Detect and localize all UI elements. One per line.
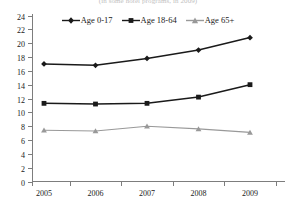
y-tick-label: 0 xyxy=(21,179,25,188)
data-series-group xyxy=(41,35,253,135)
y-tick-label: 20 xyxy=(17,40,25,49)
y-tick-label: 18 xyxy=(17,54,25,63)
y-tick-label: 10 xyxy=(17,109,25,118)
x-tick-label: 2009 xyxy=(242,189,258,198)
y-tick-label: 8 xyxy=(21,123,25,132)
line-chart: (in some hotel programs, in 2009) Age 0-… xyxy=(0,0,296,210)
y-tick-label: 12 xyxy=(17,96,25,105)
y-tick-label: 2 xyxy=(21,165,25,174)
x-tick-label: 2007 xyxy=(139,189,155,198)
x-axis: 20052006200720082009 xyxy=(33,182,286,199)
x-tick-labels: 20052006200720082009 xyxy=(36,189,258,198)
x-tick-label: 2008 xyxy=(191,189,207,198)
y-tick-label: 22 xyxy=(17,26,25,35)
series-age-0-17 xyxy=(41,35,253,68)
y-tick-label: 14 xyxy=(17,82,25,91)
data-point-marker xyxy=(248,82,253,87)
data-point-marker xyxy=(196,95,201,100)
data-point-marker xyxy=(145,101,150,106)
y-tick-label: 6 xyxy=(21,137,25,146)
series-age-65 xyxy=(41,123,253,134)
y-tick-label: 16 xyxy=(17,68,25,77)
y-tick-labels: 024681012141618202224 xyxy=(17,13,25,188)
y-tick-label: 24 xyxy=(17,13,25,22)
series-age-18-64 xyxy=(42,82,253,106)
plot-area: 024681012141618202224 200520062007200820… xyxy=(0,0,296,210)
data-point-marker xyxy=(93,102,98,107)
data-point-marker xyxy=(247,35,253,41)
data-point-marker xyxy=(196,47,202,53)
x-tick-label: 2006 xyxy=(88,189,104,198)
data-point-marker xyxy=(42,101,47,106)
x-tick-label: 2005 xyxy=(36,189,52,198)
x-tick-marks xyxy=(33,182,277,187)
y-tick-marks xyxy=(28,17,33,183)
data-point-marker xyxy=(144,55,150,61)
y-tick-label: 4 xyxy=(21,151,25,160)
data-point-marker xyxy=(93,62,99,68)
y-axis: 024681012141618202224 xyxy=(17,13,33,188)
data-point-marker xyxy=(41,61,47,67)
